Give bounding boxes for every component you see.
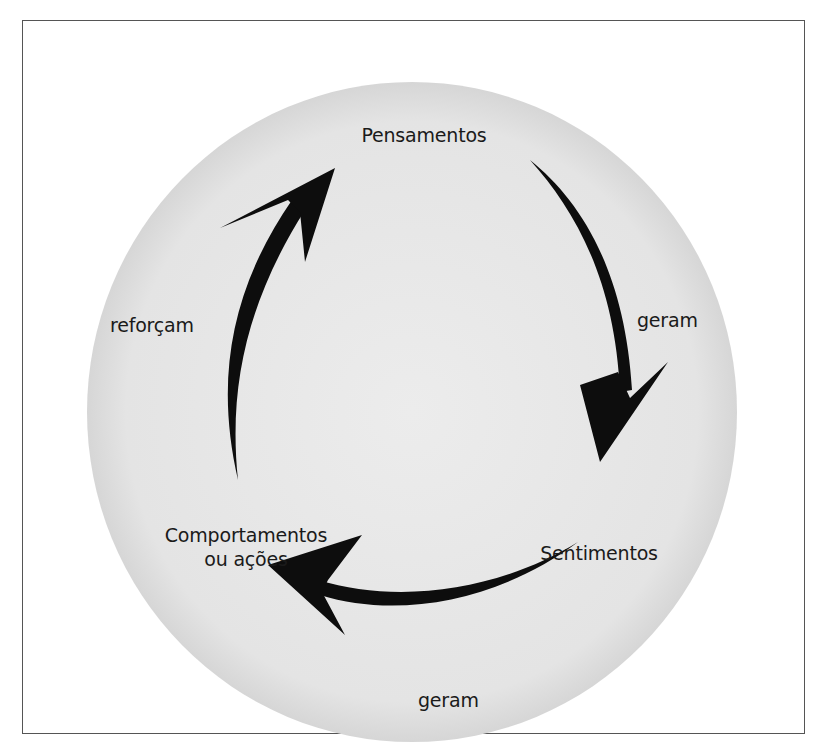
node-comportamentos-line1: Comportamentos [165,523,327,547]
node-comportamentos-line2: ou ações [204,547,287,571]
edge-label-geram-bottom: geram [418,688,479,712]
edge-label-reforcam: reforçam [110,313,194,337]
background-circle [87,82,737,742]
node-pensamentos: Pensamentos [361,123,486,147]
cycle-diagram [0,0,824,754]
edge-label-geram-right: geram [637,308,698,332]
node-sentimentos: Sentimentos [540,541,658,565]
